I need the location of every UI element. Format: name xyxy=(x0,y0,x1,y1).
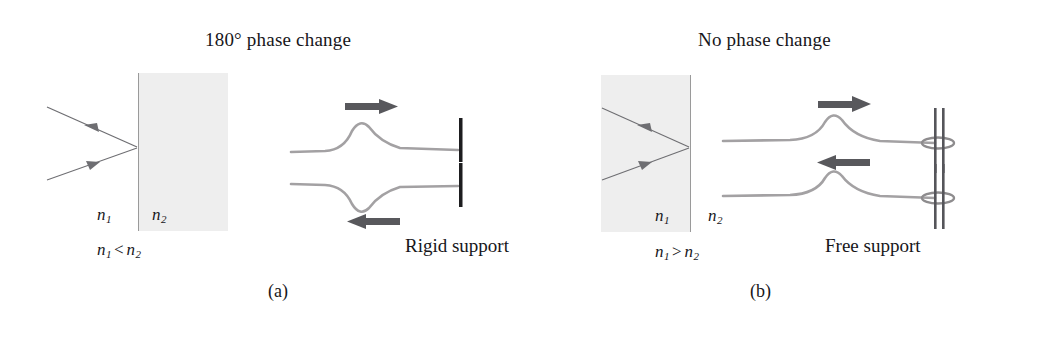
panel-a-caption: (a) xyxy=(268,281,288,301)
rigid-support-label: Rigid support xyxy=(405,235,509,257)
reflected-ray-line xyxy=(47,107,137,147)
physics-figure: 180° phase change xyxy=(0,0,1037,345)
relation-left-symbol: n xyxy=(97,240,106,259)
relation-left-symbol: n xyxy=(655,242,664,261)
medium-block-n1 xyxy=(601,75,690,232)
n1-symbol: n xyxy=(97,205,106,224)
label-n2-right: n2 xyxy=(708,206,722,227)
n2-subscript: 2 xyxy=(717,214,723,226)
relation-n1-gt-n2: n1>n2 xyxy=(655,242,699,263)
panel-a: 180° phase change xyxy=(0,0,560,345)
reflected-ray-arrowhead xyxy=(84,123,99,132)
incident-ray-line xyxy=(47,148,137,180)
reflected-direction-arrow xyxy=(347,214,400,229)
panel-b-heading: No phase change xyxy=(698,29,831,51)
relation-left-subscript: 1 xyxy=(106,248,112,260)
relation-n1-lt-n2: n1<n2 xyxy=(97,240,141,261)
n1-subscript: 1 xyxy=(664,214,670,226)
reflected-direction-arrow xyxy=(817,155,870,170)
incident-direction-arrow xyxy=(818,96,871,112)
relation-right-symbol: n xyxy=(685,242,694,261)
panel-b-caption: (b) xyxy=(750,281,771,301)
free-support-rod-right-upper xyxy=(942,108,945,173)
relation-left-subscript: 1 xyxy=(664,250,670,262)
n1-symbol: n xyxy=(655,206,664,225)
incident-wave-pulse xyxy=(723,115,935,143)
relation-operator: < xyxy=(111,240,127,259)
interface-line xyxy=(138,73,139,231)
panel-a-heading: 180° phase change xyxy=(205,29,351,51)
rigid-support-bar-lower xyxy=(459,163,463,207)
n1-subscript: 1 xyxy=(106,213,112,225)
rigid-support-bar-upper xyxy=(459,118,463,162)
free-support-label: Free support xyxy=(825,235,921,257)
free-support-rod-right-lower xyxy=(942,164,945,229)
label-n2-right: n2 xyxy=(152,205,166,226)
reflected-wave-pulse xyxy=(723,171,935,198)
free-support-ring-lower xyxy=(922,193,954,204)
label-n1-left: n1 xyxy=(655,206,669,227)
interface-line xyxy=(690,75,691,232)
n2-symbol: n xyxy=(708,206,717,225)
free-support-rod-left-upper xyxy=(934,108,937,173)
incident-direction-arrow xyxy=(345,99,398,114)
free-support-upper xyxy=(922,108,954,173)
n2-subscript: 2 xyxy=(161,213,167,225)
relation-operator: > xyxy=(669,242,685,261)
label-n1-left: n1 xyxy=(97,205,111,226)
panel-b: No phase change xyxy=(560,0,1037,345)
n2-symbol: n xyxy=(152,205,161,224)
relation-right-subscript: 2 xyxy=(694,250,700,262)
free-support-lower xyxy=(922,164,954,229)
free-support-rod-left-lower xyxy=(934,164,937,229)
incident-ray-arrowhead xyxy=(86,161,100,170)
reflected-wave-pulse xyxy=(291,184,458,212)
incident-wave-pulse xyxy=(291,123,458,152)
relation-right-subscript: 2 xyxy=(136,248,142,260)
relation-right-symbol: n xyxy=(127,240,136,259)
free-support-ring-upper xyxy=(922,138,954,149)
